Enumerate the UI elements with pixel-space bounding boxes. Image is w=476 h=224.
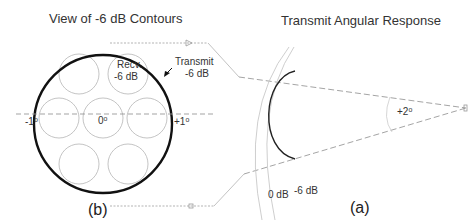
contour-label-6db: -6 dB <box>294 186 318 196</box>
recv-beam-mid-left <box>39 98 79 138</box>
left-panel-title: View of -6 dB Contours <box>49 12 182 25</box>
angle-arc <box>386 97 392 132</box>
panel-label-a: (a) <box>350 200 370 216</box>
projection-diagonals <box>208 43 244 206</box>
transmit-response-arc <box>269 71 295 159</box>
axis-label-plus-1: +1o <box>174 117 189 127</box>
panel-label-b: (b) <box>88 202 108 218</box>
transmit-label-line2: -6 dB <box>185 69 209 79</box>
transmit-arrow-icon <box>164 71 170 77</box>
axis-label-0: 0o <box>98 116 107 126</box>
right-panel-title: Transmit Angular Response <box>281 14 441 27</box>
recv-beam-mid-right <box>127 98 167 138</box>
angle-label: +2o <box>397 107 412 117</box>
recv-beam-bottom-right <box>108 144 148 184</box>
contour-label-0db: 0 dB <box>268 190 289 200</box>
recv-label-line1: Recv. <box>117 60 142 70</box>
axis-label-minus-1: -1o <box>25 117 38 127</box>
recv-label-line2: -6 dB <box>114 72 138 82</box>
recv-beam-bottom-left <box>59 144 99 184</box>
transmit-label-line1: Transmit <box>175 57 214 67</box>
